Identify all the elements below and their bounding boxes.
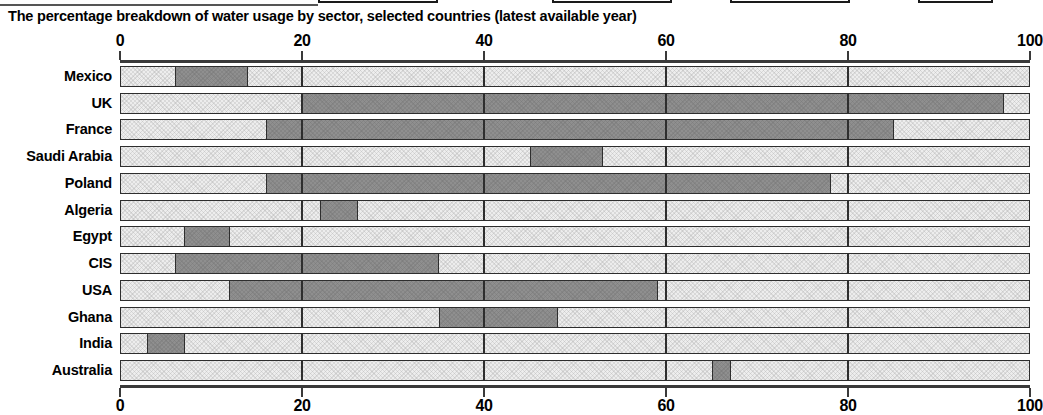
bar-segment-agriculture[interactable] [658, 281, 1029, 300]
legend-swatch-2 [552, 0, 672, 3]
plot-bottom-gap [120, 381, 1030, 384]
axis-tick-80 [847, 51, 849, 60]
axis-tick-0 [119, 388, 121, 397]
country-label-saudi-arabia: Saudi Arabia [0, 146, 112, 167]
plot-area [120, 63, 1030, 384]
country-label-uk: UK [0, 93, 112, 114]
bar-row[interactable] [120, 66, 1030, 87]
bar-row[interactable] [120, 226, 1030, 247]
country-label-poland: Poland [0, 173, 112, 194]
bar-segment-domestic[interactable] [121, 361, 713, 380]
country-label-algeria: Algeria [0, 200, 112, 221]
bar-segment-agriculture[interactable] [894, 120, 1029, 139]
bar-segment-domestic[interactable] [121, 281, 230, 300]
axis-tick-80 [847, 388, 849, 397]
bar-segment-agriculture[interactable] [831, 174, 1029, 193]
axis-tick-20 [301, 51, 303, 60]
country-label-usa: USA [0, 280, 112, 301]
country-label-australia: Australia [0, 360, 112, 381]
axis-tick-label-20: 20 [293, 397, 310, 415]
country-label-egypt: Egypt [0, 226, 112, 247]
axis-tick-label-60: 60 [657, 397, 674, 415]
bar-segment-industry[interactable] [267, 120, 895, 139]
bar-row[interactable] [120, 173, 1030, 194]
bar-segment-domestic[interactable] [121, 334, 148, 353]
bar-segment-domestic[interactable] [121, 120, 267, 139]
bar-segment-domestic[interactable] [121, 227, 185, 246]
legend-swatch-1 [318, 0, 438, 3]
bar-segment-domestic[interactable] [121, 174, 267, 193]
bar-segment-industry[interactable] [230, 281, 658, 300]
country-label-cis: CIS [0, 253, 112, 274]
axis-tick-40 [483, 388, 485, 397]
axis-tick-label-40: 40 [475, 32, 492, 50]
axis-tick-20 [301, 388, 303, 397]
bar-segment-industry[interactable] [185, 227, 231, 246]
axis-tick-label-100: 100 [1017, 397, 1043, 415]
bar-segment-domestic[interactable] [121, 308, 440, 327]
axis-tick-label-20: 20 [293, 32, 310, 50]
bar-row[interactable] [120, 146, 1030, 167]
bar-segment-industry[interactable] [148, 334, 184, 353]
axis-tick-60 [665, 51, 667, 60]
bar-row[interactable] [120, 280, 1030, 301]
axis-tick-label-60: 60 [657, 32, 674, 50]
legend-swatch-3 [730, 0, 850, 3]
legend-strip [0, 0, 1033, 7]
bar-segment-agriculture[interactable] [1004, 94, 1029, 113]
country-label-france: France [0, 119, 112, 140]
bar-segment-agriculture[interactable] [185, 334, 1029, 353]
bar-segment-industry[interactable] [267, 174, 831, 193]
axis-tick-label-80: 80 [839, 32, 856, 50]
bar-row[interactable] [120, 253, 1030, 274]
bar-segment-agriculture[interactable] [439, 254, 1029, 273]
axis-tick-60 [665, 388, 667, 397]
country-label-mexico: Mexico [0, 66, 112, 87]
chart-title: The percentage breakdown of water usage … [8, 8, 637, 24]
bar-row[interactable] [120, 333, 1030, 354]
axis-tick-label-0: 0 [116, 397, 125, 415]
bar-segment-industry[interactable] [176, 67, 249, 86]
axis-top: 020406080100 [120, 60, 1030, 61]
legend-rule [0, 4, 318, 6]
bar-segment-agriculture[interactable] [603, 147, 1029, 166]
bar-segment-agriculture[interactable] [731, 361, 1029, 380]
bar-segment-domestic[interactable] [121, 147, 531, 166]
bar-segment-industry[interactable] [303, 94, 1004, 113]
axis-tick-40 [483, 51, 485, 60]
bar-row[interactable] [120, 200, 1030, 221]
country-label-ghana: Ghana [0, 307, 112, 328]
legend-swatch-4 [918, 0, 993, 3]
axis-tick-0 [119, 51, 121, 60]
bar-segment-agriculture[interactable] [358, 201, 1029, 220]
bar-segment-industry[interactable] [440, 308, 558, 327]
axis-bottom: 020406080100 [120, 385, 1030, 386]
bar-row[interactable] [120, 307, 1030, 328]
bar-segment-industry[interactable] [531, 147, 604, 166]
bar-segment-domestic[interactable] [121, 94, 303, 113]
category-axis-labels: MexicoUKFranceSaudi ArabiaPolandAlgeriaE… [0, 63, 112, 384]
bar-row[interactable] [120, 119, 1030, 140]
axis-bottom-line [120, 385, 1030, 388]
bar-segment-domestic[interactable] [121, 201, 321, 220]
bar-segment-agriculture[interactable] [558, 308, 1029, 327]
country-label-india: India [0, 333, 112, 354]
axis-tick-label-100: 100 [1017, 32, 1043, 50]
bar-segment-industry[interactable] [713, 361, 731, 380]
bar-segment-domestic[interactable] [121, 254, 176, 273]
axis-tick-label-80: 80 [839, 397, 856, 415]
bar-row[interactable] [120, 93, 1030, 114]
axis-tick-label-0: 0 [116, 32, 125, 50]
bar-segment-agriculture[interactable] [248, 67, 1029, 86]
axis-tick-label-40: 40 [475, 397, 492, 415]
axis-tick-100 [1029, 388, 1031, 397]
axis-tick-100 [1029, 51, 1031, 60]
bar-segment-domestic[interactable] [121, 67, 176, 86]
bar-row[interactable] [120, 360, 1030, 381]
bar-segment-industry[interactable] [321, 201, 357, 220]
bar-segment-agriculture[interactable] [230, 227, 1029, 246]
bar-segment-industry[interactable] [176, 254, 440, 273]
